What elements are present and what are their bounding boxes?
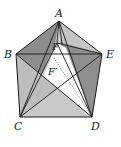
label-a: A: [54, 7, 63, 20]
pentagon-diagram: A B E C D F F′: [0, 0, 121, 147]
shaded-regions: [16, 21, 102, 117]
label-b: B: [3, 48, 12, 61]
label-f: F: [51, 41, 60, 52]
label-e: E: [105, 48, 114, 61]
label-d: D: [90, 120, 100, 133]
label-c: C: [14, 120, 23, 133]
label-f-prime: F′: [47, 66, 58, 77]
